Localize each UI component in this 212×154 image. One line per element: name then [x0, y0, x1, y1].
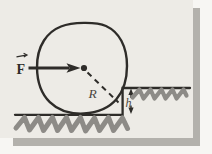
radius-label: R: [88, 86, 98, 101]
figure-stage: F R h: [0, 0, 212, 154]
force-label: F: [17, 62, 26, 77]
upper-ground-hatching: [133, 90, 187, 99]
wheel-center-dot: [81, 65, 87, 71]
wheel-step-diagram: F R h: [0, 0, 212, 154]
lower-ground-hatching: [16, 118, 128, 132]
vector-arrow-icon: [17, 53, 28, 57]
